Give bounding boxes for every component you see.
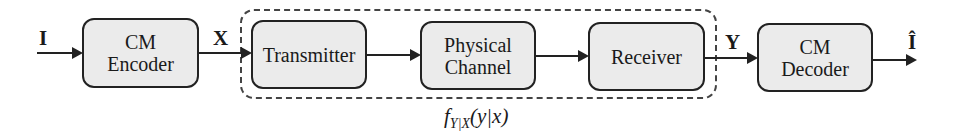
arrow-channel-to-receiver	[536, 55, 587, 57]
arrow-transmitter-to-channel	[367, 54, 419, 56]
channel-pdf-label: fY|X(y|x)	[444, 104, 508, 132]
block-label-line: Encoder	[107, 53, 174, 75]
block-label-line: CM	[781, 36, 849, 58]
arrow-input	[37, 52, 81, 54]
pdf-arguments: (y|x)	[470, 104, 508, 128]
block-label-line: Transmitter	[263, 44, 356, 66]
signal-output-label: Î	[908, 30, 916, 55]
block-cm-encoder: CM Encoder	[82, 18, 199, 88]
block-transmitter: Transmitter	[251, 20, 367, 89]
block-label-line: Receiver	[611, 46, 682, 68]
block-cm-decoder: CM Decoder	[757, 23, 873, 92]
signal-input-label: I	[39, 26, 47, 51]
block-label-line: Channel	[444, 56, 512, 78]
pdf-subscript: Y|X	[450, 116, 470, 131]
arrow-encoder-to-transmitter	[199, 52, 250, 54]
block-receiver: Receiver	[588, 22, 705, 91]
block-label-line: CM	[107, 31, 174, 53]
block-physical-channel: Physical Channel	[420, 21, 536, 90]
arrow-receiver-to-decoder	[705, 57, 756, 59]
signal-received-label: Y	[725, 30, 740, 55]
arrow-output	[873, 59, 915, 61]
block-label-line: Physical	[444, 34, 512, 56]
signal-encoded-label: X	[213, 26, 228, 51]
block-label-line: Decoder	[781, 58, 849, 80]
